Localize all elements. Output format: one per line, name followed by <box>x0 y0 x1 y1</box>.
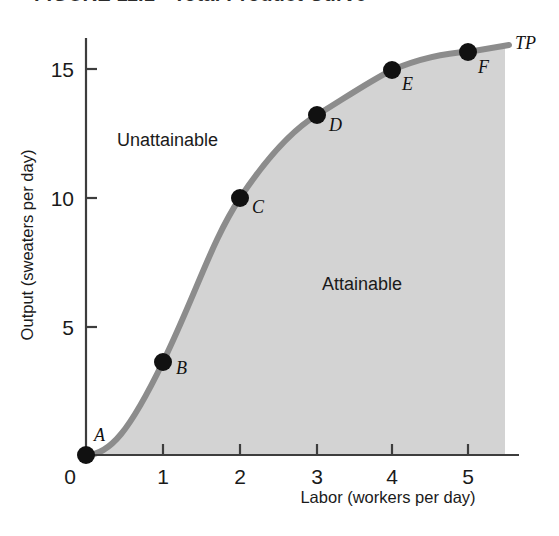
data-point-label-b: B <box>176 358 187 378</box>
data-point-label-f: F <box>477 57 490 77</box>
data-point-e <box>383 61 401 79</box>
y-tick-label-15: 15 <box>51 58 74 81</box>
data-point-label-d: D <box>328 115 342 135</box>
x-tick-label-2: 2 <box>234 465 246 488</box>
x-axis-title: Labor (workers per day) <box>300 488 475 506</box>
data-point-d <box>308 106 326 124</box>
data-point-label-c: C <box>252 197 265 217</box>
data-point-f <box>459 43 477 61</box>
data-point-a <box>77 446 95 464</box>
data-point-c <box>231 189 249 207</box>
figure-container: FIGURE 11.1Total Product Curve 15 <box>0 0 559 536</box>
x-tick-label-4: 4 <box>386 465 398 488</box>
curve-label-tp: TP <box>515 33 536 53</box>
data-point-label-a: A <box>93 425 106 445</box>
x-tick-label-5: 5 <box>462 465 474 488</box>
y-tick-label-5: 5 <box>62 316 74 339</box>
data-point-label-e: E <box>401 74 413 94</box>
y-axis-title: Output (sweaters per day) <box>18 150 36 341</box>
region-label-unattainable: Unattainable <box>117 130 218 150</box>
region-label-attainable: Attainable <box>322 274 402 294</box>
y-tick-label-10: 10 <box>51 187 74 210</box>
x-tick-label-1: 1 <box>157 465 169 488</box>
x-tick-label-0: 0 <box>64 465 76 488</box>
data-point-b <box>154 353 172 371</box>
x-tick-label-3: 3 <box>311 465 323 488</box>
total-product-curve-chart: 15 10 5 0 1 2 3 4 5 Output (sweaters per… <box>0 0 559 536</box>
